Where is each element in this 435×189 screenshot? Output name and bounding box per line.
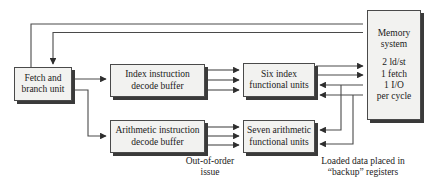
index-instruction-decode-buffer-line-2: decode buffer	[131, 81, 183, 92]
wire-fetch-to-arith-decode	[72, 90, 106, 136]
memory-system-rate-per-cycle: per cycle	[377, 91, 412, 102]
seven-arithmetic-functional-units-line-1: Seven arithmetic	[247, 125, 311, 136]
fetch-and-branch-unit-line-2: branch unit	[21, 84, 64, 95]
fetch-and-branch-unit[interactable]: Fetch and branch unit	[14, 67, 72, 101]
caption-out-of-order-issue-line-1: Out-of-order	[155, 156, 265, 167]
wire-memory-to-arith-units-2	[320, 95, 353, 144]
memory-system-rate-io: 1 I/O	[384, 80, 404, 91]
memory-system-line-2: system	[381, 39, 407, 50]
caption-out-of-order-issue: Out-of-order issue	[155, 156, 265, 178]
arithmetic-instruction-decode-buffer[interactable]: Arithmetic instruction decode buffer	[110, 120, 205, 153]
caption-backup-registers: Loaded data placed in “backup” registers	[293, 156, 433, 178]
memory-system-line-1: Memory	[378, 28, 411, 39]
arithmetic-instruction-decode-buffer-line-1: Arithmetic instruction	[115, 125, 199, 136]
memory-system-rate-fetch: 1 fetch	[381, 69, 407, 80]
arithmetic-instruction-decode-buffer-line-2: decode buffer	[131, 137, 183, 148]
diagram-canvas: Fetch and branch unit Index instruction …	[0, 0, 435, 189]
six-index-functional-units[interactable]: Six index functional units	[243, 63, 315, 97]
memory-system[interactable]: Memory system 2 ld/st 1 fetch 1 I/O per …	[367, 10, 421, 120]
caption-backup-registers-line-2: “backup” registers	[293, 167, 433, 178]
caption-out-of-order-issue-line-2: issue	[155, 167, 265, 178]
wire-memory-to-fetch-outer	[31, 24, 363, 67]
six-index-functional-units-line-2: functional units	[249, 80, 308, 91]
caption-backup-registers-line-1: Loaded data placed in	[293, 156, 433, 167]
seven-arithmetic-functional-units[interactable]: Seven arithmetic functional units	[243, 120, 315, 153]
wire-memory-to-arith-units-1	[320, 85, 341, 130]
wire-memory-to-fetch-inner	[53, 33, 363, 65]
memory-system-rate-ldst: 2 ld/st	[382, 57, 406, 68]
index-instruction-decode-buffer-line-1: Index instruction	[125, 69, 190, 80]
six-index-functional-units-line-1: Six index	[261, 69, 297, 80]
fetch-and-branch-unit-line-1: Fetch and	[24, 73, 61, 84]
index-instruction-decode-buffer[interactable]: Index instruction decode buffer	[110, 64, 205, 97]
seven-arithmetic-functional-units-line-2: functional units	[249, 137, 308, 148]
